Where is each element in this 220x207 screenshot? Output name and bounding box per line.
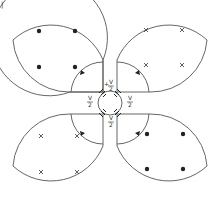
loop-bottom-left [13,114,103,181]
inner-arc-bottom-right [117,114,149,144]
crosses-top-right [144,28,184,67]
diagram: + V 2 V 2 V 2 V 2 | [0,0,220,207]
dots-bottom-right [145,132,185,171]
crosses-bottom-left [39,134,79,174]
label-bottom-v: V [109,114,114,121]
label-top-v: V [109,78,114,85]
dots-top-left [37,29,77,69]
sources [99,89,121,117]
label-right-v: V [128,94,133,101]
label-left-v: V [88,94,93,101]
loop-top-left [0,0,107,96]
corner-mark: | [1,1,3,9]
loop-bottom-right [117,114,207,181]
loop-top-right [117,25,207,92]
inner-arc-bottom-left [71,114,103,144]
